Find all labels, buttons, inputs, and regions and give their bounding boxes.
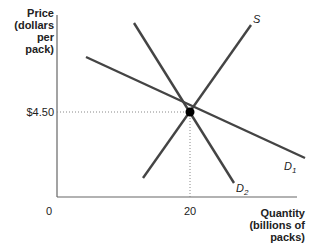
demand-curve-d2	[134, 23, 234, 183]
supply-curve-label: S	[253, 13, 260, 25]
price-tick-label: $4.50	[10, 106, 54, 118]
demand-curve-d2-label: D2	[236, 182, 248, 199]
x-axis-label: Quantity (billions of packs)	[225, 207, 305, 243]
y-axis-label: Price (dollars per pack)	[0, 7, 54, 55]
equilibrium-point	[186, 108, 195, 117]
supply-curve-s	[143, 25, 251, 178]
demand-curve-d1-label: D1	[284, 160, 296, 177]
demand-curve-d1	[86, 57, 305, 158]
origin-label: 0	[46, 205, 52, 217]
quantity-tick-label: 20	[184, 205, 196, 217]
